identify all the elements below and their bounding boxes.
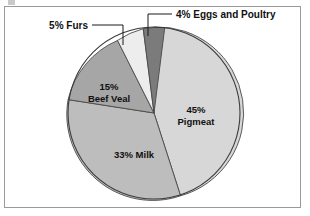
label-beef-veal-name: Beef Veal	[88, 93, 130, 104]
pie-chart: 45% Pigmeat 33% Milk 15% Beef Veal 5% Fu…	[0, 0, 310, 216]
label-milk: 33% Milk	[114, 149, 155, 160]
label-pigmeat-percent: 45%	[186, 104, 206, 115]
label-eggs-and-poultry: 4% Eggs and Poultry	[176, 9, 276, 20]
chart-page: 45% Pigmeat 33% Milk 15% Beef Veal 5% Fu…	[0, 0, 310, 216]
label-beef-veal-percent: 15%	[99, 81, 119, 92]
label-pigmeat-name: Pigmeat	[178, 116, 216, 127]
label-furs: 5% Furs	[49, 20, 88, 31]
